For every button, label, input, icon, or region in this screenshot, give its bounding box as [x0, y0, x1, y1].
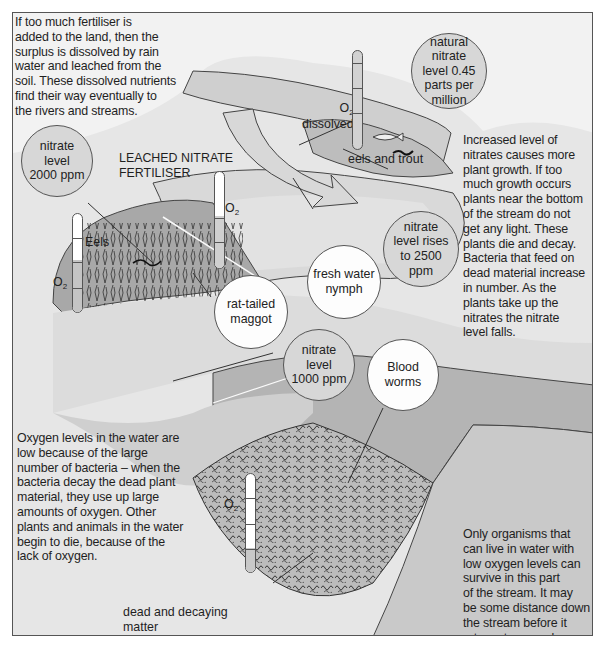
nitrate-2000-bubble: nitrate level 2000 ppm	[21, 125, 93, 197]
o2-subscript: 2	[235, 208, 239, 217]
text-line: dead material increase	[463, 266, 593, 281]
o2-label-leaching: O2	[225, 201, 239, 217]
intro-paragraph: If too much fertiliser is added to the l…	[15, 15, 205, 119]
o2-label-decay: O2	[224, 497, 238, 513]
text-line: survive in this part	[463, 571, 591, 586]
text-line: plants die and decay.	[463, 237, 593, 252]
text-line: surplus is dissolved by rain	[15, 45, 205, 60]
eels-and-trout-label: eels and trout	[348, 152, 423, 167]
text-line: plants near the bottom	[463, 192, 593, 207]
text-line: low because of the large	[17, 446, 207, 461]
oxygen-gauge-leaching	[214, 171, 225, 269]
nitrate-1000-bubble: nitrate level 1000 ppm	[283, 329, 355, 401]
bubble-text: Blood	[385, 360, 421, 375]
eels-label: Eels	[85, 235, 109, 250]
o2-symbol: O	[225, 201, 235, 215]
text-line: material, they use up large	[17, 490, 207, 505]
rat-tailed-maggot-bubble: rat-tailed maggot	[214, 275, 288, 349]
text-line: get any light. These	[463, 222, 593, 237]
bubble-text: maggot	[227, 312, 275, 327]
text-line: low oxygen levels can	[463, 557, 591, 572]
text-line: level falls.	[463, 325, 593, 340]
text-line: plants and animals in the water	[17, 520, 207, 535]
text-line: returns to normal.	[463, 631, 591, 636]
text-line: plant growth. If too	[463, 163, 593, 178]
bubble-text: level	[29, 154, 84, 169]
bubble-text: 2000 ppm	[29, 168, 84, 183]
bubble-text: ppm	[393, 264, 448, 279]
label-line: dead and decaying	[123, 605, 228, 620]
bubble-text: natural	[422, 35, 475, 50]
bubble-text: level rises	[393, 234, 448, 249]
oxygen-low-paragraph: Oxygen levels in the water are low becau…	[17, 431, 207, 564]
bubble-text: level 0.45	[422, 64, 475, 79]
label-line: LEACHED NITRATE	[119, 151, 233, 166]
text-line: Increased level of	[463, 133, 593, 148]
fresh-water-nymph-bubble: fresh water nymph	[307, 245, 381, 319]
o2-subscript: 2	[63, 282, 67, 291]
text-line: Oxygen levels in the water are	[17, 431, 207, 446]
diagram-frame: If too much fertiliser is added to the l…	[12, 12, 593, 636]
blood-worms-bubble: Blood worms	[367, 339, 439, 411]
gauge-tick	[246, 524, 255, 525]
o2-label-weeds: O2	[53, 275, 67, 291]
bubble-text: worms	[385, 375, 421, 390]
gauge-tick	[215, 242, 224, 243]
plant-growth-paragraph: Increased level of nitrates causes more …	[463, 133, 593, 340]
gauge-fill	[246, 548, 255, 572]
gauge-tick	[73, 262, 82, 263]
text-line: in number. As the	[463, 281, 593, 296]
oxygen-gauge-weeds	[72, 213, 83, 313]
text-line: bacteria decay the dead plant	[17, 475, 207, 490]
text-line: much growth occurs	[463, 177, 593, 192]
gauge-tick	[353, 88, 362, 89]
text-line: soil. These dissolved nutrients	[15, 74, 205, 89]
o2-symbol: O	[53, 275, 63, 289]
text-line: If too much fertiliser is	[15, 15, 205, 30]
bubble-text: fresh water	[313, 267, 374, 282]
gauge-tick	[353, 63, 362, 64]
text-line: be some distance down	[463, 601, 591, 616]
o2-symbol: O	[340, 101, 350, 115]
text-line: water and leached from the	[15, 59, 205, 74]
bubble-text: million	[422, 93, 475, 108]
o2-symbol: O	[224, 497, 234, 511]
text-line: amounts of oxygen. Other	[17, 505, 207, 520]
gauge-fill	[73, 260, 82, 312]
oxygen-gauge-decay	[245, 473, 256, 573]
text-line: Bacteria that feed on	[463, 251, 593, 266]
bubble-text: 1000 ppm	[291, 372, 346, 387]
bubble-text: nitrate	[291, 343, 346, 358]
gauge-tick	[353, 113, 362, 114]
gauge-tick	[73, 238, 82, 239]
dissolved-label: dissolved	[302, 117, 354, 131]
text-line: lack of oxygen.	[17, 549, 207, 564]
label-line: matter	[123, 620, 228, 635]
text-line: begin to die, because of the	[17, 535, 207, 550]
recovery-paragraph: Only organisms that can live in water wi…	[463, 527, 591, 636]
bubble-text: nymph	[313, 282, 374, 297]
nitrate-2500-bubble: nitrate level rises to 2500 ppm	[383, 211, 459, 287]
gauge-tick	[246, 498, 255, 499]
bubble-text: to 2500	[393, 249, 448, 264]
text-line: find their way eventually to	[15, 89, 205, 104]
bubble-text: nitrate	[393, 220, 448, 235]
o2-label-upstream: O2 dissolved	[328, 101, 354, 131]
bubble-text: rat-tailed	[227, 297, 275, 312]
text-line: nitrates causes more	[463, 148, 593, 163]
o2-subscript: 2	[234, 504, 238, 513]
bubble-text: parts per	[422, 78, 475, 93]
gauge-tick	[73, 288, 82, 289]
text-line: plants take up the	[463, 296, 593, 311]
bubble-text: level	[291, 358, 346, 373]
bubble-text: nitrate	[422, 49, 475, 64]
dead-matter-label: dead and decaying matter	[123, 605, 228, 635]
text-line: added to the land, then the	[15, 30, 205, 45]
bubble-text: nitrate	[29, 139, 84, 154]
text-line: can live in water with	[463, 542, 591, 557]
text-line: nitrates the nitrate	[463, 311, 593, 326]
gauge-tick	[215, 218, 224, 219]
text-line: of the stream do not	[463, 207, 593, 222]
text-line: number of bacteria – when the	[17, 461, 207, 476]
text-line: of the stream. It may	[463, 586, 591, 601]
